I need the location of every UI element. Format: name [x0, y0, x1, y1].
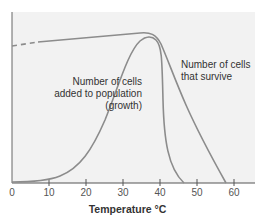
x-axis-label: Temperature °C [0, 203, 255, 215]
x-tick-label: 20 [80, 187, 91, 198]
x-tick-label: 10 [43, 187, 54, 198]
x-tick-label: 30 [117, 187, 128, 198]
survival-curve-dashed [12, 42, 38, 46]
x-tick-label: 60 [228, 187, 239, 198]
growth-annotation-line: Number of cells [40, 76, 142, 88]
survive-annotation: Number of cells that survive [181, 59, 255, 83]
survive-annotation-line: that survive [181, 71, 255, 83]
survive-annotation-line: Number of cells [181, 59, 255, 71]
growth-annotation-line: (growth) [40, 100, 142, 112]
growth-annotation: Number of cells added to population (gro… [40, 76, 142, 112]
x-tick-label: 50 [191, 187, 202, 198]
x-tick-label: 0 [9, 187, 15, 198]
x-tick-label: 40 [154, 187, 165, 198]
temperature-growth-chart: 0 10 20 30 40 50 60 Temperature °C Numbe… [0, 0, 255, 217]
growth-annotation-line: added to population [40, 88, 142, 100]
